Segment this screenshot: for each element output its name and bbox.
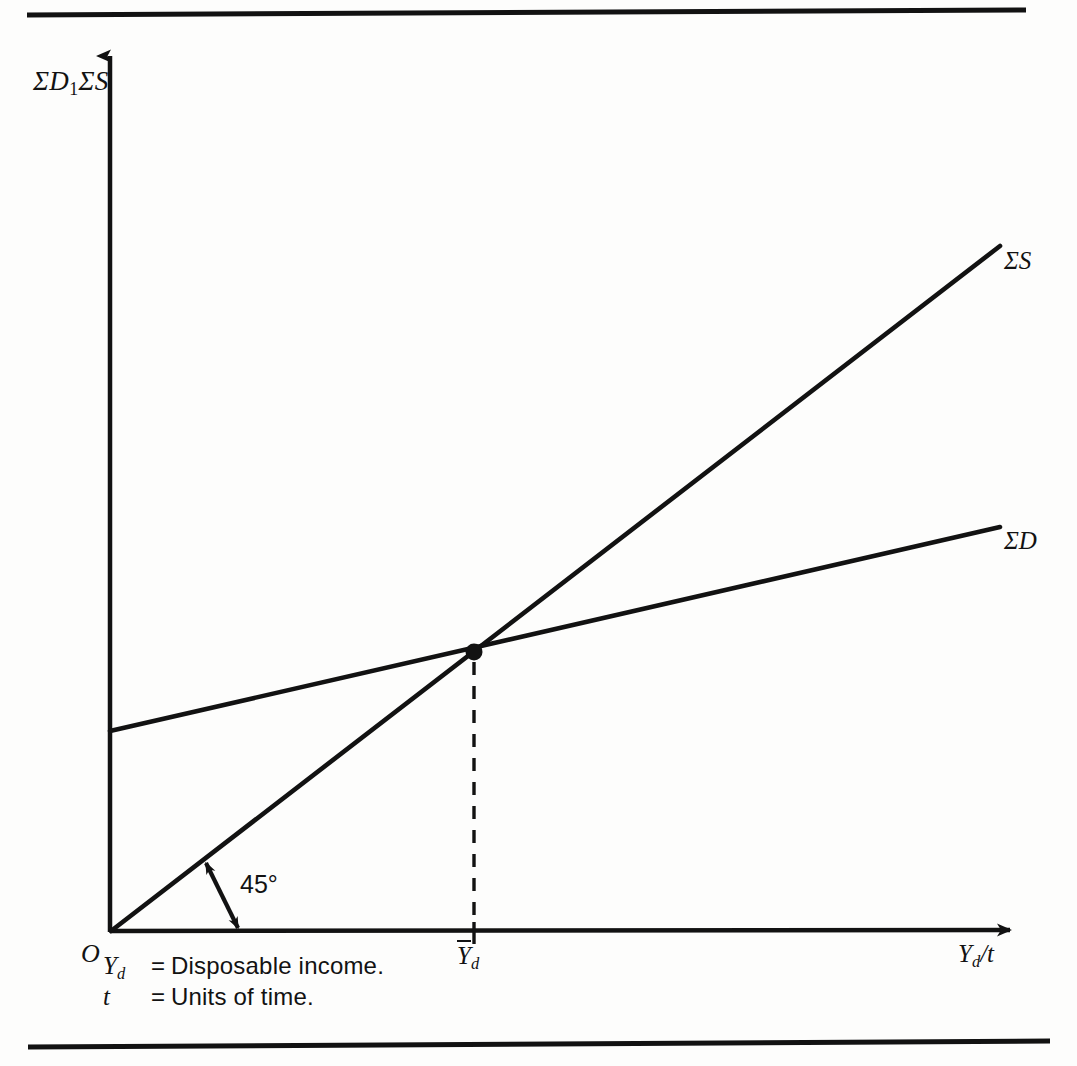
origin-label: O xyxy=(81,941,100,967)
demand-curve-label: ΣD xyxy=(1004,528,1037,553)
legend-symbol: Yd xyxy=(103,952,151,984)
y-axis-label-sigma-d: ΣD xyxy=(33,66,69,96)
legend-item: Yd = Disposable income. xyxy=(103,952,384,983)
x-axis xyxy=(110,930,1010,931)
x-axis-label-y: Y xyxy=(958,940,972,967)
x-axis-label-per-t: /t xyxy=(980,940,994,967)
top-rule xyxy=(27,10,1026,15)
legend-text: Disposable income. xyxy=(171,952,384,980)
y-axis-label: ΣD1ΣS xyxy=(33,68,109,99)
angle-indicator-arrow xyxy=(206,863,238,928)
y-axis-label-sigma-s: ΣS xyxy=(78,66,108,96)
aggregate-demand-line xyxy=(110,527,1000,731)
equilibrium-x-label-ybar: Y xyxy=(457,940,471,968)
x-axis-label-subscript: d xyxy=(972,952,980,971)
equilibrium-x-label: Yd xyxy=(457,940,479,973)
equilibrium-x-label-subscript: d xyxy=(471,954,479,973)
equilibrium-point-marker xyxy=(466,644,483,661)
aggregate-supply-line xyxy=(111,246,1000,931)
x-axis-label: Yd/t xyxy=(958,941,994,971)
legend-item: t = Units of time. xyxy=(103,983,384,1014)
figure-container: ΣD1ΣS ΣS ΣD O Yd/t Yd 45° Yd = Disposabl… xyxy=(0,0,1077,1066)
legend-equals-sign: = xyxy=(151,983,171,1011)
figure-drawing xyxy=(0,0,1077,1066)
angle-annotation-label: 45° xyxy=(240,872,278,897)
legend-symbol: t xyxy=(103,983,151,1015)
legend-symbol-subscript: d xyxy=(117,964,125,983)
bottom-rule xyxy=(28,1041,1050,1047)
legend-equals-sign: = xyxy=(151,952,171,980)
figure-legend: Yd = Disposable income. t = Units of tim… xyxy=(103,952,384,1014)
legend-symbol-base: t xyxy=(103,983,110,1010)
legend-text: Units of time. xyxy=(171,983,314,1011)
y-axis-label-subscript: 1 xyxy=(69,79,78,99)
supply-curve-label: ΣS xyxy=(1004,248,1031,273)
legend-symbol-base: Y xyxy=(103,952,117,979)
